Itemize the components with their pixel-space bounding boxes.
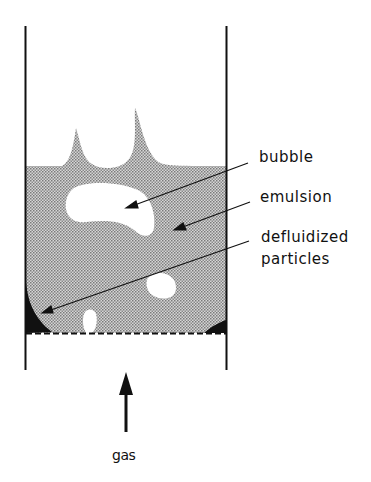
label-emulsion: emulsion [260, 188, 332, 206]
label-defluidized: defluidized [261, 228, 349, 246]
gas-inlet-arrow [119, 372, 133, 432]
label-bubble: bubble [259, 148, 313, 166]
label-gas: gas [112, 446, 135, 464]
label-particles: particles [261, 250, 330, 268]
